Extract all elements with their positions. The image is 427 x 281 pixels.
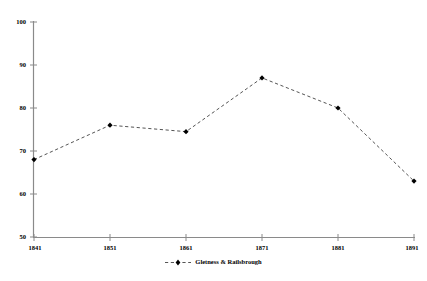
data-point-1841	[31, 157, 36, 162]
x-tick-label-1891: 1891	[406, 245, 419, 252]
y-tick-label-100: 100	[8, 19, 26, 26]
y-tick-label-90: 90	[8, 62, 26, 69]
line-chart-plot	[0, 0, 427, 281]
x-tick-label-1861: 1861	[180, 245, 193, 252]
data-point-1851	[107, 123, 112, 128]
x-tick-label-1881: 1881	[332, 245, 345, 252]
chart-container: 100 90 80 70 60 50 1841 1851 1861 1871 1…	[0, 0, 427, 281]
x-tick-label-1851: 1851	[104, 245, 117, 252]
y-tick-label-60: 60	[8, 191, 26, 198]
y-tick-label-80: 80	[8, 105, 26, 112]
x-tick-label-1841: 1841	[29, 245, 42, 252]
legend-marker-icon	[165, 258, 191, 267]
y-tick-label-50: 50	[8, 234, 26, 241]
data-point-1861	[183, 129, 188, 134]
y-tick-label-70: 70	[8, 148, 26, 155]
series-markers	[31, 75, 416, 183]
legend-entry-label: Gletness & Railsbrough	[195, 259, 261, 266]
series-line-gletness-railsbrough	[34, 78, 414, 181]
x-tick-label-1871: 1871	[256, 245, 269, 252]
chart-legend: Gletness & Railsbrough	[0, 258, 427, 267]
